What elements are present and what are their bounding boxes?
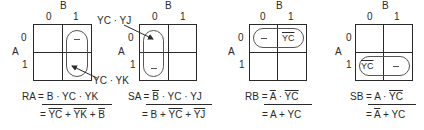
equation-sa-overbar bbox=[146, 104, 212, 105]
grid-divider-h bbox=[355, 52, 413, 53]
cell-mark-yc-bar: YC bbox=[282, 33, 295, 43]
equation-sb-line2: = A + YC bbox=[366, 109, 405, 121]
row-label-0: 0 bbox=[346, 33, 352, 43]
col-label-1: 1 bbox=[394, 12, 400, 22]
col-var-label: B bbox=[382, 1, 389, 11]
equation-sb-line1: SB = A · YC bbox=[350, 91, 403, 103]
grid-divider-h bbox=[249, 52, 307, 53]
equation-ra-overbar bbox=[42, 104, 112, 105]
equation-sa-line2: = B + YC + YJ bbox=[142, 109, 205, 121]
equation-ra-line1: RA = B · YC · YK bbox=[22, 91, 98, 103]
cell-mark-dash bbox=[261, 38, 267, 39]
equation-sb-overbar bbox=[368, 104, 416, 105]
equation-ra-line2: = YC + YK + B bbox=[40, 109, 105, 121]
row-var-label: A bbox=[335, 47, 342, 57]
equation-sa-line1: SA = B · YC · YJ bbox=[128, 91, 202, 103]
equation-rb-line1: RB = A · YC bbox=[245, 91, 299, 103]
col-label-1: 1 bbox=[288, 12, 294, 22]
col-var-label: B bbox=[276, 1, 283, 11]
equation-rb-overbar bbox=[264, 104, 312, 105]
col-label-0: 0 bbox=[367, 12, 373, 22]
cell-mark-dash bbox=[393, 66, 399, 67]
row-label-0: 0 bbox=[238, 33, 244, 43]
col-label-0: 0 bbox=[260, 12, 266, 22]
equation-rb-line2: = A + YC bbox=[262, 109, 301, 121]
row-label-1: 1 bbox=[346, 60, 352, 70]
cell-mark-yc-bar: YC bbox=[361, 61, 374, 71]
row-var-label: A bbox=[228, 47, 235, 57]
row-label-1: 1 bbox=[239, 60, 245, 70]
